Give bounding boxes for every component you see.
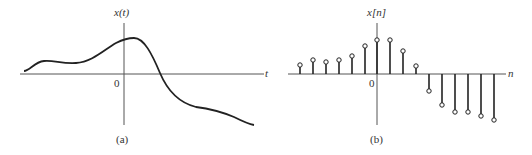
stem-marker [350, 54, 354, 58]
stem-marker [324, 60, 328, 64]
xt-label: x(t) [114, 6, 129, 18]
stem-marker [311, 58, 315, 62]
stem-marker [479, 114, 483, 118]
t-label: t [265, 67, 268, 79]
stem-marker [427, 89, 431, 93]
stem-marker [492, 118, 496, 122]
stem-marker [414, 64, 418, 68]
origin-a-label: 0 [114, 77, 120, 89]
stem-marker [375, 38, 379, 42]
stem-marker [401, 49, 405, 53]
signal-curve [24, 38, 254, 125]
n-label: n [508, 67, 514, 79]
caption-b: (b) [370, 133, 383, 145]
figure-a-plot [20, 23, 264, 125]
xn-label: x[n] [367, 6, 386, 18]
stem-marker [466, 110, 470, 114]
stem-marker [298, 63, 302, 67]
figure-b-plot [288, 23, 506, 125]
origin-b-label: 0 [369, 77, 375, 89]
caption-a: (a) [116, 133, 128, 145]
stem-marker [337, 58, 341, 62]
stem-marker [388, 38, 392, 42]
stem-marker [363, 44, 367, 48]
stem-marker [453, 110, 457, 114]
stem-marker [440, 103, 444, 107]
